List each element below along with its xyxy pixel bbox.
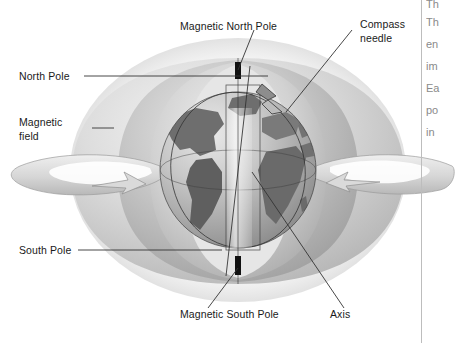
body-text-fragment-5: po [426, 104, 438, 117]
body-text-fragment-4: Ea [426, 82, 439, 95]
figure-canvas: Magnetic North Pole Compass needle North… [0, 0, 456, 343]
label-compass-needle-line1: Compass [360, 18, 405, 31]
magnetic-field-illustration [0, 0, 456, 343]
body-text-column: Th Th en im Ea po in [426, 0, 456, 343]
body-text-fragment-3: im [426, 60, 438, 73]
magnetic-band [226, 108, 252, 248]
label-magnetic-north-pole: Magnetic North Pole [180, 20, 277, 33]
label-magnetic-field-line1: Magnetic [19, 116, 62, 129]
body-text-fragment-1: Th [426, 16, 439, 29]
label-axis: Axis [330, 308, 350, 321]
body-text-fragment-2: en [426, 38, 438, 51]
label-north-pole: North Pole [19, 70, 70, 83]
label-magnetic-field-line2: field [19, 130, 39, 143]
body-text-fragment-0: Th [426, 0, 439, 11]
label-magnetic-south-pole: Magnetic South Pole [180, 308, 279, 321]
body-text-fragment-6: in [426, 126, 435, 139]
column-divider [421, 0, 422, 343]
label-south-pole: South Pole [19, 244, 71, 257]
label-compass-needle-line2: needle [360, 32, 392, 45]
magnetic-south-pole-marker [235, 256, 241, 275]
